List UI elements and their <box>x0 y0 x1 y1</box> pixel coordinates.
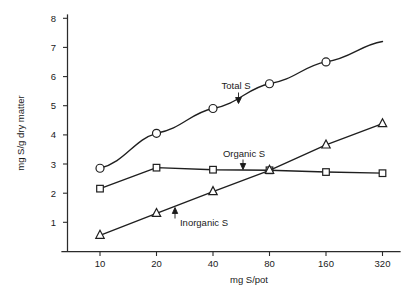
data-point-circle <box>266 80 274 88</box>
x-tick-label-160: 160 <box>318 258 334 269</box>
x-axis-title: mg S/pot <box>230 274 268 285</box>
y-tick-label-5: 5 <box>51 100 56 111</box>
x-tick-marks <box>100 252 383 257</box>
data-point-circle <box>96 164 104 172</box>
data-point-square <box>97 185 104 192</box>
x-tick-label-80: 80 <box>264 258 275 269</box>
y-tick-label-2: 2 <box>51 188 56 199</box>
series-markers-organic-s <box>97 164 386 192</box>
data-point-circle <box>209 105 217 113</box>
annotation-organic-s: Organic S <box>223 148 265 170</box>
y-tick-label-8: 8 <box>51 13 56 24</box>
data-point-square <box>323 169 330 176</box>
data-point-triangle <box>378 119 386 127</box>
x-tick-label-40: 40 <box>208 258 219 269</box>
data-point-square <box>210 166 217 173</box>
y-tick-marks <box>63 18 68 222</box>
annotation-label-total-s: Total S <box>221 80 250 91</box>
data-point-square <box>379 170 386 177</box>
annotation-arrowhead-total-s <box>236 98 242 104</box>
series-organic-s <box>97 164 386 192</box>
x-tick-label-20: 20 <box>151 258 162 269</box>
x-tick-label-320: 320 <box>375 258 391 269</box>
data-point-circle <box>153 129 161 137</box>
annotation-label-organic-s: Organic S <box>223 148 265 159</box>
y-axis-title: mg S/g dry matter <box>15 95 26 171</box>
line-chart: 8 7 6 5 4 3 2 1 10 20 40 80 160 320 <box>0 0 410 294</box>
y-tick-label-6: 6 <box>51 71 56 82</box>
data-point-circle <box>322 58 330 66</box>
x-tick-label-10: 10 <box>95 258 106 269</box>
annotation-inorganic-s: Inorganic S <box>172 208 228 229</box>
annotation-label-inorganic-s: Inorganic S <box>180 217 228 228</box>
y-tick-label-3: 3 <box>51 159 56 170</box>
data-point-square <box>153 164 160 171</box>
axis-group <box>62 15 400 252</box>
y-tick-label-1: 1 <box>51 217 56 228</box>
annotation-arrowhead-organic-s <box>240 164 245 170</box>
y-tick-label-4: 4 <box>51 129 56 140</box>
x-tick-labels: 10 20 40 80 160 320 <box>95 258 391 269</box>
y-tick-label-7: 7 <box>51 42 56 53</box>
chart-figure: 8 7 6 5 4 3 2 1 10 20 40 80 160 320 <box>0 0 410 294</box>
series-inorganic-s <box>96 119 387 239</box>
series-line-organic-s <box>100 168 383 189</box>
y-tick-labels: 8 7 6 5 4 3 2 1 <box>51 13 56 228</box>
annotation-arrowhead-inorganic-s <box>172 208 177 214</box>
